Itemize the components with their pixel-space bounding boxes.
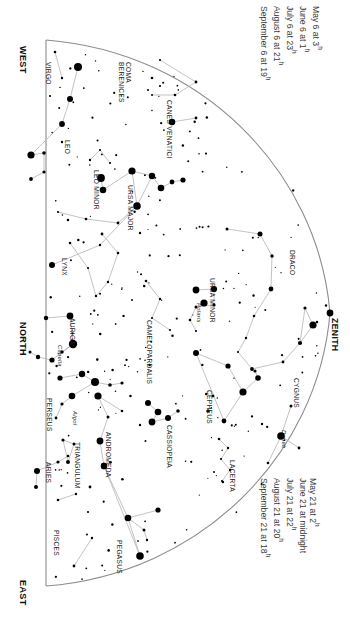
- time-hour: 22: [285, 517, 295, 527]
- star: [169, 329, 171, 331]
- constellation-line: [96, 282, 108, 296]
- constellation-line: [128, 518, 140, 556]
- star: [233, 288, 234, 289]
- star: [125, 359, 127, 361]
- constellation-label-auriga: AURIGA: [68, 318, 75, 345]
- star: [121, 287, 122, 288]
- constellation-label-lacerta: LACERTA: [228, 460, 235, 492]
- star: [199, 494, 200, 495]
- constellation-label-aries: ARIES: [44, 462, 51, 483]
- star: [107, 549, 110, 552]
- star: [223, 288, 225, 290]
- star: [58, 107, 60, 109]
- star: [49, 95, 51, 97]
- star: [144, 440, 146, 442]
- star: [109, 102, 111, 104]
- star: [198, 137, 200, 139]
- star: [242, 250, 244, 252]
- star: [216, 475, 217, 476]
- star: [82, 241, 84, 243]
- star: [174, 94, 177, 97]
- star: [241, 171, 243, 173]
- star: [316, 345, 317, 346]
- time-hour-superscript: h: [304, 49, 311, 53]
- time-hour-superscript: h: [314, 523, 321, 527]
- star: [97, 314, 99, 316]
- time-date: June 21 at: [298, 478, 308, 521]
- star: [159, 59, 161, 61]
- time-hour: 19: [259, 67, 269, 77]
- star: [237, 351, 239, 353]
- time-hour-superscript: h: [278, 61, 285, 65]
- star: [29, 351, 32, 354]
- star: [59, 121, 65, 127]
- direction-label-north: NORTH: [18, 322, 28, 356]
- time-date: May 21 at: [308, 478, 318, 518]
- star: [91, 378, 99, 386]
- star: [69, 67, 71, 69]
- star: [91, 117, 93, 119]
- time-legend-top-row: May 6 at 3h: [311, 6, 322, 116]
- star: [34, 485, 38, 489]
- constellation-line: [152, 318, 170, 330]
- time-date: August 21 at: [272, 478, 282, 529]
- star: [227, 447, 229, 449]
- star: [48, 372, 50, 374]
- time-legend-bottom-row: June 21 at midnight: [298, 478, 307, 616]
- time-legend-bottom-row: September 21 at 18h: [260, 478, 271, 616]
- star: [91, 537, 93, 539]
- constellation-label-canes-venatici: CANES VENATICI: [165, 100, 172, 159]
- star: [207, 478, 208, 479]
- star: [94, 392, 101, 399]
- constellation-line: [160, 60, 196, 82]
- star: [144, 174, 146, 176]
- star: [282, 361, 285, 364]
- time-hour-superscript: h: [278, 538, 285, 542]
- star: [201, 364, 203, 366]
- star: [55, 576, 57, 578]
- star: [99, 244, 101, 246]
- star: [245, 337, 247, 339]
- star: [255, 307, 256, 308]
- star: [176, 317, 178, 319]
- star: [90, 313, 92, 315]
- star: [121, 410, 124, 413]
- star: [235, 424, 237, 426]
- constellation-line: [110, 383, 122, 385]
- star: [158, 185, 165, 192]
- constellation-line: [100, 150, 110, 163]
- star: [137, 271, 138, 272]
- star: [217, 417, 218, 418]
- star: [170, 180, 175, 185]
- star: [199, 226, 201, 228]
- time-hour: 20: [272, 529, 282, 539]
- constellation-line: [260, 234, 272, 256]
- constellation-line: [252, 362, 283, 369]
- star-label-deneb: Deneb: [281, 430, 287, 449]
- constellation-label-camelopardalis: CAMELOPARDALIS: [145, 320, 152, 384]
- star: [144, 520, 146, 522]
- star: [55, 417, 58, 420]
- star: [182, 144, 184, 146]
- constellation-line: [271, 256, 272, 289]
- star: [145, 280, 148, 283]
- star: [60, 402, 63, 405]
- star: [192, 314, 193, 315]
- star: [83, 87, 85, 89]
- constellation-line: [283, 343, 300, 362]
- star: [159, 85, 161, 87]
- star: [69, 393, 76, 400]
- star: [252, 237, 254, 239]
- star: [87, 511, 89, 513]
- constellation-label-ursa-major: URSA MAJOR: [126, 185, 133, 231]
- constellation-label-coma-berenices: COMA BERENICES: [117, 62, 131, 103]
- star: [315, 355, 317, 357]
- star: [131, 299, 133, 301]
- constellation-line: [88, 268, 96, 296]
- star: [185, 418, 187, 420]
- star: [165, 415, 171, 421]
- constellation-line: [172, 118, 196, 122]
- constellation-line: [70, 67, 78, 99]
- constellation-label-cepheus: CEPHEUS: [205, 390, 212, 424]
- star: [258, 232, 263, 237]
